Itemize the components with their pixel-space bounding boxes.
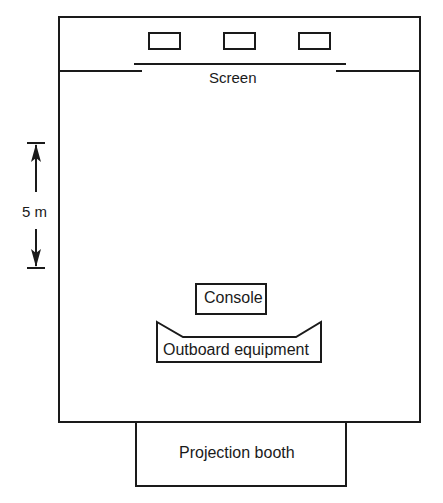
outboard-equipment-label: Outboard equipment <box>163 341 309 359</box>
speaker-right <box>299 33 330 49</box>
scale-label: 5 m <box>22 203 47 220</box>
projection-booth-label: Projection booth <box>179 444 295 462</box>
speaker-left <box>149 33 180 49</box>
screen-label: Screen <box>209 69 257 86</box>
speaker-center <box>224 33 255 49</box>
console-label: Console <box>204 289 263 307</box>
